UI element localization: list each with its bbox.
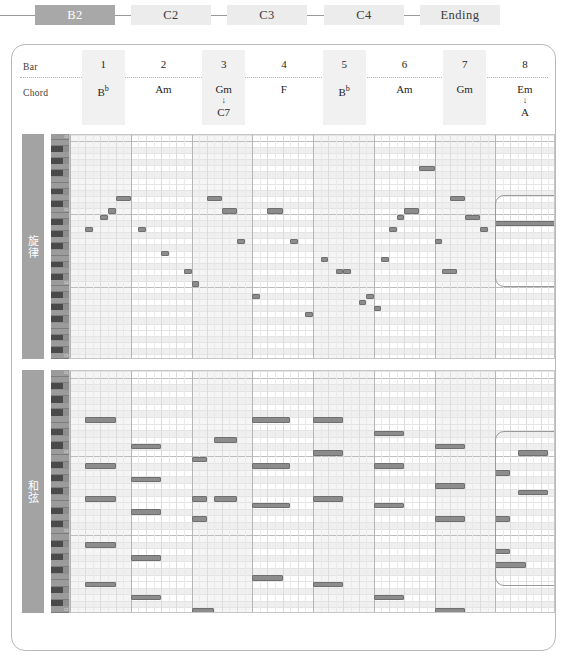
note-block[interactable] — [85, 582, 115, 588]
piano-key-white[interactable] — [51, 225, 69, 231]
note-block[interactable] — [131, 555, 161, 561]
note-block[interactable] — [131, 509, 161, 515]
piano-key-white[interactable] — [51, 213, 69, 219]
piano-key-white[interactable] — [51, 310, 69, 316]
piano-key-white[interactable] — [51, 329, 69, 335]
note-block[interactable] — [184, 269, 192, 274]
piano-key-white[interactable] — [51, 580, 69, 587]
piano-key-black[interactable] — [51, 587, 63, 593]
piano-key-white[interactable] — [51, 403, 69, 410]
piano-key-black[interactable] — [51, 396, 63, 402]
chord-piano-roll[interactable] — [69, 370, 555, 613]
piano-key-white[interactable] — [51, 177, 69, 183]
piano-key-white[interactable] — [51, 469, 69, 476]
piano-key-white[interactable] — [51, 152, 69, 158]
note-block[interactable] — [85, 463, 115, 469]
note-block[interactable] — [252, 417, 290, 423]
note-block[interactable] — [366, 294, 374, 299]
piano-key-white[interactable] — [51, 323, 69, 329]
piano-key-white[interactable] — [51, 482, 69, 489]
piano-key-white[interactable] — [51, 390, 69, 397]
piano-key-white[interactable] — [51, 298, 69, 304]
piano-key-white[interactable] — [51, 237, 69, 243]
piano-key-white[interactable] — [51, 256, 69, 262]
bar-column-2[interactable]: 2Am — [142, 50, 185, 125]
note-block[interactable] — [359, 300, 367, 305]
note-block[interactable] — [313, 496, 343, 502]
note-block[interactable] — [435, 483, 465, 489]
note-block[interactable] — [313, 582, 343, 588]
piano-key-black[interactable] — [51, 347, 63, 353]
note-block[interactable] — [192, 281, 200, 286]
note-block[interactable] — [85, 227, 93, 232]
piano-key-white[interactable] — [51, 195, 69, 201]
piano-key-white[interactable] — [51, 436, 69, 443]
note-block[interactable] — [138, 227, 146, 232]
note-block[interactable] — [192, 457, 207, 463]
piano-key-white[interactable] — [51, 250, 69, 256]
note-block[interactable] — [192, 608, 215, 613]
piano-key-white[interactable] — [51, 341, 69, 347]
note-block[interactable] — [435, 444, 465, 450]
bar-column-4[interactable]: 4F — [262, 50, 305, 125]
note-block[interactable] — [389, 227, 397, 232]
piano-key-black[interactable] — [51, 488, 63, 494]
piano-key-white[interactable] — [51, 514, 69, 521]
note-block[interactable] — [192, 496, 207, 502]
note-block[interactable] — [495, 516, 510, 522]
note-block[interactable] — [267, 208, 282, 213]
note-block[interactable] — [207, 196, 222, 201]
note-block[interactable] — [100, 215, 108, 220]
piano-key-black[interactable] — [51, 189, 63, 195]
piano-key-black[interactable] — [51, 462, 63, 468]
note-block[interactable] — [313, 417, 343, 423]
melody-keyboard[interactable]: C3C4C5C6 — [51, 134, 69, 359]
note-block[interactable] — [374, 463, 404, 469]
note-block[interactable] — [435, 239, 443, 244]
note-block[interactable] — [305, 312, 313, 317]
section-chip-c4[interactable]: C4 — [324, 5, 404, 25]
bar-column-8[interactable]: 8Em↓A — [503, 50, 546, 125]
piano-key-white[interactable] — [51, 560, 69, 567]
chord-keyboard[interactable]: C2C3C4C5 — [51, 370, 69, 613]
note-block[interactable] — [108, 208, 116, 213]
note-block[interactable] — [237, 239, 245, 244]
piano-key-white[interactable] — [51, 423, 69, 430]
note-block[interactable] — [450, 196, 465, 201]
piano-key-black[interactable] — [51, 292, 63, 298]
note-block[interactable] — [495, 549, 510, 555]
note-block[interactable] — [442, 269, 457, 274]
bar-column-6[interactable]: 6Am — [383, 50, 426, 125]
piano-key-black[interactable] — [51, 201, 63, 207]
piano-key-white[interactable] — [51, 455, 69, 462]
piano-key-white[interactable] — [51, 268, 69, 274]
note-block[interactable] — [252, 463, 290, 469]
note-block[interactable] — [85, 542, 115, 548]
bar-column-7[interactable]: 7Gm — [443, 50, 486, 125]
note-block[interactable] — [495, 470, 510, 476]
piano-key-white[interactable] — [51, 593, 69, 600]
note-block[interactable] — [252, 294, 260, 299]
note-block[interactable] — [435, 516, 465, 522]
bar-column-5[interactable]: 5Bb — [323, 50, 366, 125]
piano-key-black[interactable] — [51, 316, 63, 322]
note-block[interactable] — [214, 437, 237, 443]
piano-key-black[interactable] — [51, 231, 63, 237]
bar-column-3[interactable]: 3Gm↓C7 — [202, 50, 245, 125]
piano-key-white[interactable] — [51, 416, 69, 423]
piano-key-white[interactable] — [51, 183, 69, 189]
piano-key-black[interactable] — [51, 442, 63, 448]
section-chip-ending[interactable]: Ending — [420, 5, 500, 25]
note-block[interactable] — [495, 562, 525, 568]
note-block[interactable] — [116, 196, 131, 201]
piano-key-white[interactable] — [51, 377, 69, 384]
piano-key-black[interactable] — [51, 304, 63, 310]
note-block[interactable] — [252, 503, 290, 509]
melody-piano-roll[interactable] — [69, 134, 555, 359]
note-block[interactable] — [419, 166, 434, 171]
piano-key-black[interactable] — [51, 335, 63, 341]
piano-key-white[interactable] — [51, 534, 69, 541]
piano-key-white[interactable] — [51, 164, 69, 170]
note-block[interactable] — [465, 215, 480, 220]
piano-key-white[interactable] — [51, 286, 69, 292]
